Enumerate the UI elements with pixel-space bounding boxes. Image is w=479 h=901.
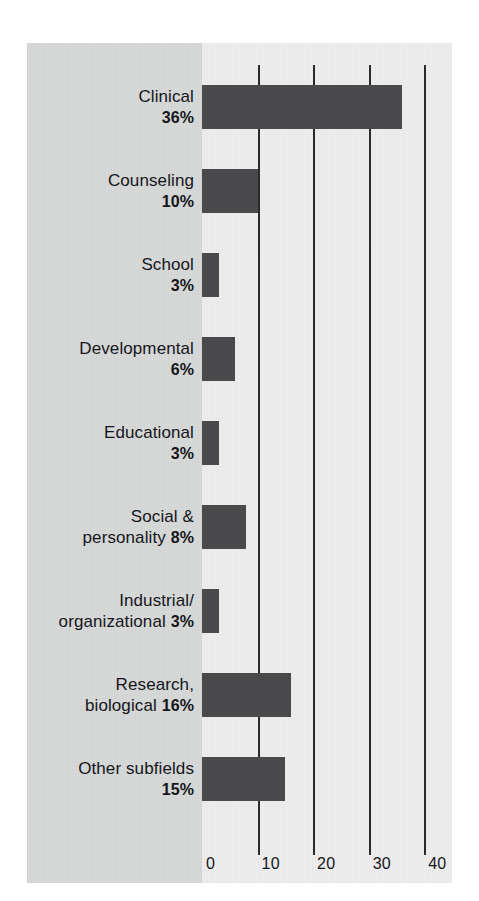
category-label-line1: Clinical — [27, 86, 194, 107]
category-label-line1: Research, — [27, 674, 194, 695]
category-label-industrial: Industrial/organizational 3% — [27, 590, 202, 632]
category-label-line2: personality 8% — [27, 527, 194, 548]
bar-cell — [202, 653, 452, 737]
category-label-school: School3% — [27, 254, 202, 296]
bar-row: Developmental6% — [27, 317, 452, 401]
bar-counseling — [202, 169, 258, 213]
value-label: 3% — [171, 277, 194, 294]
category-label-line2-text: organizational — [59, 612, 166, 631]
bar-row: Social &personality 8% — [27, 485, 452, 569]
category-label-line1: Developmental — [27, 338, 194, 359]
bar-othersubfields — [202, 757, 285, 801]
category-label-line1: Educational — [27, 422, 194, 443]
chart-page: Clinical36%Counseling10%School3%Developm… — [0, 0, 479, 901]
value-label: 3% — [171, 445, 194, 462]
bar-row: Educational3% — [27, 401, 452, 485]
category-label-line2: 36% — [27, 107, 194, 128]
category-label-othersubfields: Other subfields15% — [27, 758, 202, 800]
category-label-line1: Counseling — [27, 170, 194, 191]
category-label-line1: Industrial/ — [27, 590, 194, 611]
bar-cell — [202, 569, 452, 653]
bar-developmental — [202, 337, 235, 381]
bar-social — [202, 505, 246, 549]
category-label-line1: Social & — [27, 506, 194, 527]
bar-row: Clinical36% — [27, 65, 452, 149]
category-label-line2: 10% — [27, 191, 194, 212]
bar-industrial — [202, 589, 219, 633]
x-axis-tick-labels: 010203040 — [202, 855, 452, 883]
x-tick-label-10: 10 — [262, 855, 280, 873]
bar-cell — [202, 317, 452, 401]
value-label: 16% — [162, 697, 194, 714]
category-label-line2: organizational 3% — [27, 611, 194, 632]
value-label: 8% — [171, 529, 194, 546]
bar-row: Counseling10% — [27, 149, 452, 233]
chart-frame: Clinical36%Counseling10%School3%Developm… — [27, 43, 452, 883]
bar-clinical — [202, 85, 402, 129]
category-label-educational: Educational3% — [27, 422, 202, 464]
bar-cell — [202, 401, 452, 485]
category-label-counseling: Counseling10% — [27, 170, 202, 212]
value-label: 10% — [162, 193, 194, 210]
bar-row: Industrial/organizational 3% — [27, 569, 452, 653]
category-label-line2: 6% — [27, 359, 194, 380]
category-label-line2: 15% — [27, 779, 194, 800]
category-label-line2-text: biological — [85, 696, 157, 715]
x-tick-label-40: 40 — [428, 855, 446, 873]
category-label-line2: 3% — [27, 443, 194, 464]
category-label-line2: biological 16% — [27, 695, 194, 716]
bar-cell — [202, 65, 452, 149]
value-label: 15% — [162, 781, 194, 798]
value-label: 6% — [171, 361, 194, 378]
category-label-line2: 3% — [27, 275, 194, 296]
category-label-line1: Other subfields — [27, 758, 194, 779]
category-label-social: Social &personality 8% — [27, 506, 202, 548]
value-label: 36% — [162, 109, 194, 126]
category-label-research: Research,biological 16% — [27, 674, 202, 716]
bar-educational — [202, 421, 219, 465]
x-tick-label-0: 0 — [206, 855, 215, 873]
bar-cell — [202, 149, 452, 233]
category-label-line1: School — [27, 254, 194, 275]
bar-cell — [202, 233, 452, 317]
bar-cell — [202, 737, 452, 821]
bar-row: Other subfields15% — [27, 737, 452, 821]
category-label-developmental: Developmental6% — [27, 338, 202, 380]
category-label-clinical: Clinical36% — [27, 86, 202, 128]
bar-cell — [202, 485, 452, 569]
category-label-line2-text: personality — [83, 528, 166, 547]
bar-row: School3% — [27, 233, 452, 317]
x-tick-label-20: 20 — [317, 855, 335, 873]
bar-school — [202, 253, 219, 297]
value-label: 3% — [171, 613, 194, 630]
bar-research — [202, 673, 291, 717]
x-tick-label-30: 30 — [373, 855, 391, 873]
bar-row: Research,biological 16% — [27, 653, 452, 737]
